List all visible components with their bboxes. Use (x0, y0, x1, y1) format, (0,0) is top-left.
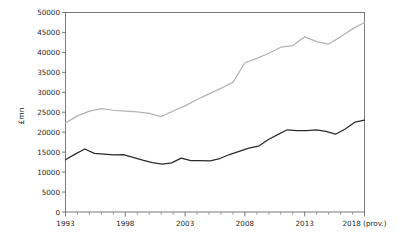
y-axis-tick-labels: 0500010000150002000025000300003500040000… (37, 8, 60, 217)
y-tick-label: 45000 (37, 28, 60, 37)
y-tick-label: 40000 (37, 48, 60, 57)
y-tick-label: 15000 (37, 148, 60, 157)
line-chart: 0500010000150002000025000300003500040000… (0, 0, 407, 240)
y-tick-label: 35000 (37, 68, 60, 77)
y-tick-label: 50000 (37, 8, 60, 17)
x-tick-label: 2008 (236, 219, 255, 228)
x-tick-label: 2013 (296, 219, 314, 228)
y-tick-label: 20000 (37, 128, 60, 137)
y-tick-label: 10000 (37, 168, 60, 177)
x-axis-ticks (66, 212, 365, 217)
chart-container: 0500010000150002000025000300003500040000… (0, 0, 407, 240)
x-tick-label: 1998 (116, 219, 135, 228)
y-tick-label: 5000 (42, 188, 61, 197)
y-tick-label: 30000 (37, 88, 60, 97)
y-axis-ticks (62, 13, 66, 213)
y-tick-label: 0 (55, 208, 60, 217)
x-tick-label: 2003 (176, 219, 194, 228)
x-tick-label: 1993 (56, 219, 74, 228)
x-axis-tick-labels: 199319982003200820132018 (prov.) (56, 219, 386, 228)
y-axis-title: £mn (17, 107, 26, 124)
x-tick-label: 2018 (prov.) (343, 219, 387, 228)
y-tick-label: 25000 (37, 108, 60, 117)
